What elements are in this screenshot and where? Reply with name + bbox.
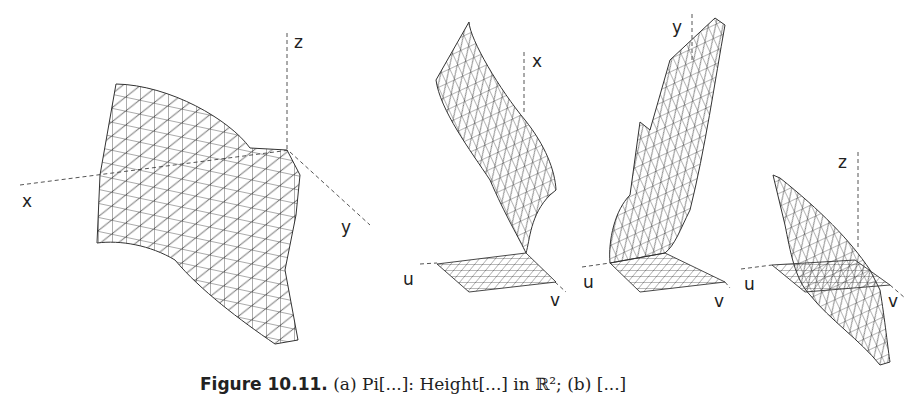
figure-label: Figure 10.11.	[200, 374, 328, 394]
panel-b1-x-surface: x u v	[403, 22, 566, 310]
h-axis-label: x	[532, 51, 542, 71]
panel-a-surface: z x y	[20, 32, 370, 344]
h-axis-label: y	[672, 17, 682, 37]
h-axis-label: z	[838, 152, 847, 172]
panel-b2-y-surface: y u v	[582, 14, 730, 311]
wireframe-mesh	[610, 18, 725, 263]
u-axis-label: u	[583, 272, 594, 292]
u-axis-label: u	[744, 274, 755, 294]
v-axis-label: v	[888, 291, 898, 311]
u-axis-label: u	[403, 269, 414, 289]
figure-caption: Figure 10.11. (a) Pi[...]: Height[...] i…	[200, 374, 923, 394]
y-axis-line	[290, 152, 370, 225]
y-axis-label: y	[341, 217, 351, 237]
panel-b3-z-surface: z u v	[741, 152, 905, 365]
v-axis-label: v	[550, 290, 560, 310]
x-axis-label: x	[22, 191, 32, 211]
wireframe-mesh	[97, 84, 300, 344]
v-axis-label: v	[714, 291, 724, 311]
uv-grid	[437, 253, 556, 292]
z-axis-label: z	[294, 32, 303, 52]
caption-text: (a) Pi[...]: Height[...] in ℝ²; (b) [...…	[333, 374, 626, 394]
